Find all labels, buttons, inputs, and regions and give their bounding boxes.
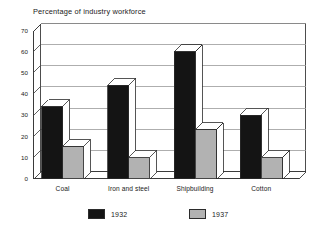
y-tick-label: 70 [14,27,28,34]
y-tick-label: 0 [14,175,28,182]
x-tick-label-cotton: Cotton [251,185,271,192]
legend-label-1937: 1937 [212,211,228,218]
y-axis-tick [34,45,41,52]
y-tick-label: 10 [14,154,28,161]
bar-shipbuilding-1937 [195,123,223,179]
y-axis-top-connector [34,24,41,31]
y-axis-tick [34,108,41,115]
y-axis-tick [34,150,41,157]
y-axis-tick [34,66,41,73]
y-tick-label: 50 [14,69,28,76]
plot-area [0,0,317,232]
y-tick-label: 60 [14,48,28,55]
y-axis-tick [34,129,41,136]
y-tick-label: 30 [14,111,28,118]
legend-item-1932: 1932 [88,208,127,220]
y-axis-tick [34,87,41,94]
bar-iron-and-steel-1937 [129,150,157,178]
x-tick-label-iron-and-steel: Iron and steel [108,185,149,192]
x-tick-label-shipbuilding: Shipbuilding [176,185,213,192]
chart-legend: 19321937 [0,206,317,222]
legend-item-1937: 1937 [189,208,228,220]
legend-label-1932: 1932 [111,211,127,218]
bar-coal-1937 [63,140,91,179]
bar-chart: Percentage of industry workforce 7060504… [0,0,317,232]
y-tick-label: 20 [14,133,28,140]
x-tick-label-coal: Coal [56,185,70,192]
bar-cotton-1937 [261,150,289,178]
legend-swatch-1932 [88,209,105,219]
legend-swatch-1937 [189,209,206,219]
y-tick-label: 40 [14,90,28,97]
